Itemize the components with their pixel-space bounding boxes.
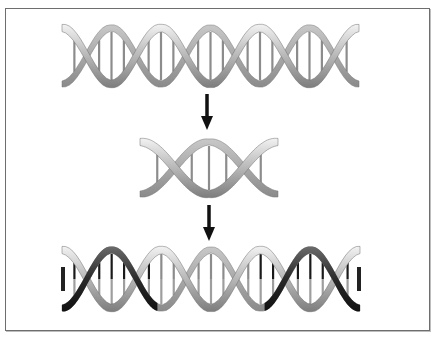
parent-dna-helix (62, 24, 359, 87)
daughter-dna-helix (61, 246, 361, 311)
dna-replication-diagram (0, 0, 438, 340)
arrow-down-icon (203, 205, 215, 241)
unwinding-dna-helix (140, 138, 278, 197)
arrow-down-icon (201, 94, 213, 130)
